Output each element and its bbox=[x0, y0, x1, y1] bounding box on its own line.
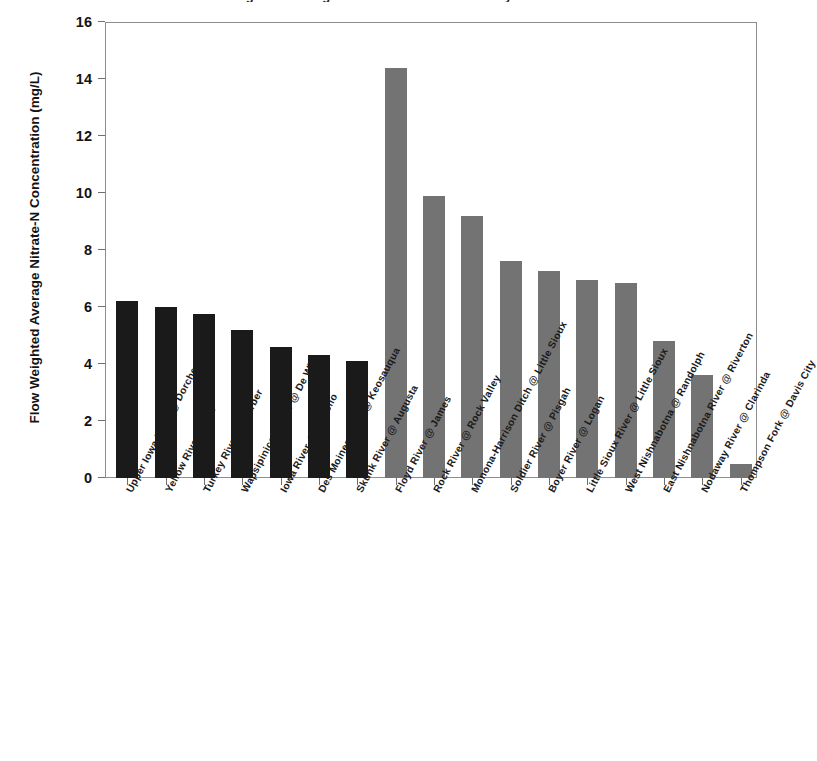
y-axis-title: Flow Weighted Average Nitrate-N Concentr… bbox=[27, 28, 42, 468]
y-tick-label: 2 bbox=[52, 411, 92, 431]
y-tick-label: 16 bbox=[52, 12, 92, 32]
y-tick-label: 14 bbox=[52, 69, 92, 89]
bar bbox=[155, 307, 177, 478]
y-tick-mark bbox=[98, 135, 105, 136]
chart-title: Flow Weighted Average Nitrate-N Concentr… bbox=[0, 0, 772, 2]
y-tick-label: 0 bbox=[52, 468, 92, 488]
bar bbox=[615, 283, 637, 478]
y-tick-mark bbox=[98, 306, 105, 307]
y-tick-mark bbox=[98, 78, 105, 79]
y-tick-mark bbox=[98, 21, 105, 22]
y-tick-label: 10 bbox=[52, 183, 92, 203]
y-tick-mark bbox=[98, 249, 105, 250]
y-tick-label: 12 bbox=[52, 126, 92, 146]
y-tick-mark bbox=[98, 192, 105, 193]
y-tick-mark bbox=[98, 363, 105, 364]
bar bbox=[116, 301, 138, 478]
bar bbox=[193, 314, 215, 478]
y-tick-label: 6 bbox=[52, 297, 92, 317]
y-tick-mark bbox=[98, 420, 105, 421]
bars-layer bbox=[105, 22, 757, 478]
y-tick-label: 4 bbox=[52, 354, 92, 374]
y-tick-label: 8 bbox=[52, 240, 92, 260]
y-tick-mark bbox=[98, 477, 105, 478]
